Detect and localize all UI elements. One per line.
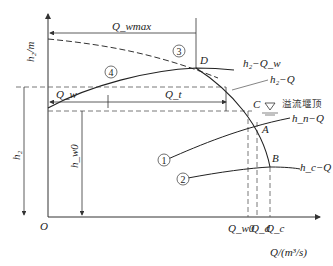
- reference-lines: [16, 87, 270, 217]
- qwmax-label: Q_wmax: [112, 20, 151, 32]
- y-axis-label: h₂/m: [24, 42, 36, 62]
- point-c: C: [253, 98, 261, 110]
- point-b: B: [272, 152, 279, 164]
- svg-text:1: 1: [162, 155, 167, 166]
- spillway-crest-label: 溢流堰顶: [282, 98, 322, 109]
- curve-hc-q: [188, 167, 300, 178]
- qw-label: Q_w: [56, 88, 77, 100]
- labels: h₂/m Q/(m³/s) O Q_wmax Q_w Q_t h₂ h_w0 D…: [10, 20, 331, 259]
- svg-text:4: 4: [109, 67, 114, 78]
- curve-label-h2-qw: h₂−Q_w: [243, 57, 281, 69]
- spillway-diagram: 1 2 3 4 h₂/m Q/(m³/s) O Q_wmax Q_w Q_t h…: [0, 0, 333, 266]
- svg-text:2: 2: [181, 174, 186, 185]
- svg-text:3: 3: [177, 46, 182, 57]
- point-d: D: [199, 54, 208, 66]
- x-axis-label: Q/(m³/s): [270, 246, 307, 259]
- curve-3: [48, 39, 218, 78]
- curve-h2-q: [196, 68, 270, 167]
- qt-label: Q_t: [165, 88, 182, 100]
- h2-label: h₂: [10, 151, 22, 161]
- curve-label-hc-q: h_c−Q: [300, 161, 331, 173]
- tick-qc: Q_c: [266, 222, 284, 234]
- dimension-lines: [24, 18, 226, 215]
- h2q-leader: [232, 80, 268, 90]
- hw0-label: h_w0: [68, 144, 80, 168]
- curve-markers: 1 2 3 4: [105, 45, 189, 185]
- origin-label: O: [40, 220, 48, 232]
- curve-label-hn-q: h_n−Q: [292, 112, 324, 124]
- point-a: A: [261, 123, 269, 135]
- curve-label-h2-q: h₂−Q: [270, 73, 295, 85]
- axes: [48, 14, 320, 217]
- spillway-crest-symbol: [262, 103, 278, 115]
